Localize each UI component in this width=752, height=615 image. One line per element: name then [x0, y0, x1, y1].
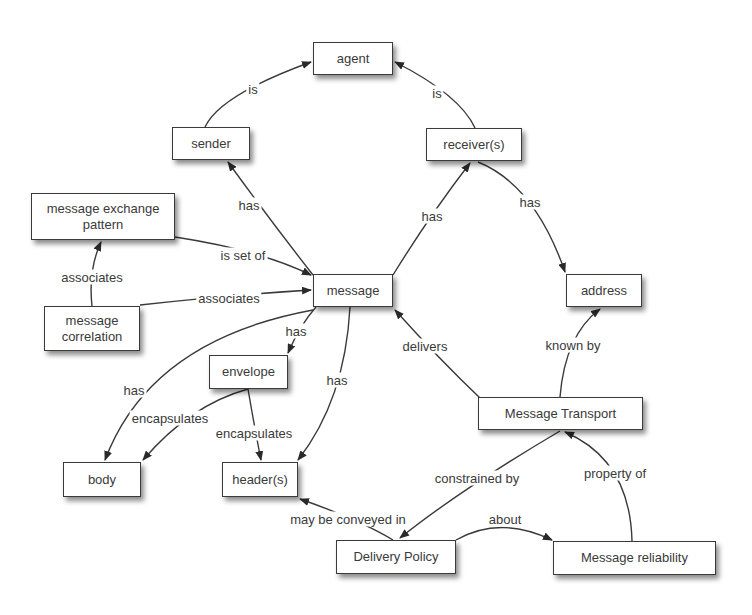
edge-policy-to-reliability: [456, 528, 552, 541]
node-label: receiver(s): [443, 137, 504, 153]
node-envelope[interactable]: envelope: [209, 355, 288, 389]
relation-label-correlation-message: associates: [196, 291, 261, 306]
relation-label-transport-message: delivers: [401, 339, 450, 354]
node-label: agent: [337, 51, 370, 67]
node-mep[interactable]: message exchange pattern: [31, 193, 175, 240]
node-message[interactable]: message: [313, 274, 393, 307]
node-reliability[interactable]: Message reliability: [553, 541, 716, 575]
relation-label-policy-headers: may be conveyed in: [288, 512, 408, 527]
relation-label-message-headers: has: [325, 373, 350, 388]
relation-label-message-body: has: [122, 383, 147, 398]
node-label: envelope: [222, 364, 275, 380]
edge-transport-to-message: [395, 310, 480, 398]
relation-label-transport-policy: constrained by: [433, 471, 522, 486]
relation-label-sender-agent: is: [246, 82, 259, 97]
node-label: header(s): [232, 472, 288, 488]
edge-envelope-to-headers: [248, 389, 261, 460]
node-policy[interactable]: Delivery Policy: [336, 540, 456, 574]
relation-label-envelope-body: encapsulates: [130, 411, 211, 426]
node-label: Message Transport: [505, 406, 616, 422]
relation-label-message-receivers: has: [420, 209, 445, 224]
node-label: Message reliability: [581, 550, 688, 566]
node-receivers[interactable]: receiver(s): [426, 128, 522, 161]
relation-label-mep-message: is set of: [219, 248, 268, 263]
node-sender[interactable]: sender: [172, 127, 250, 160]
edge-transport-to-address: [560, 309, 600, 397]
relation-label-envelope-headers: encapsulates: [214, 426, 295, 441]
edge-reliability-to-transport: [565, 432, 632, 541]
node-correlation[interactable]: message correlation: [44, 306, 140, 351]
node-label: address: [581, 283, 627, 299]
relation-label-policy-reliability: about: [487, 512, 524, 527]
node-body[interactable]: body: [63, 462, 141, 497]
node-label: message: [327, 283, 380, 299]
node-address[interactable]: address: [566, 274, 642, 307]
relation-label-transport-address: known by: [544, 338, 603, 353]
relation-label-reliability-transport: property of: [582, 466, 648, 481]
relation-label-message-sender: has: [237, 198, 262, 213]
node-label: sender: [191, 136, 231, 152]
relation-label-correlation-mep: associates: [59, 270, 124, 285]
node-transport[interactable]: Message Transport: [478, 397, 643, 430]
node-label: message correlation: [62, 313, 123, 345]
node-label: body: [88, 472, 116, 488]
relation-label-message-envelope: has: [284, 324, 309, 339]
node-label: message exchange pattern: [47, 201, 160, 233]
node-headers[interactable]: header(s): [222, 462, 298, 497]
edge-receivers-to-address: [478, 162, 565, 272]
relation-label-receivers-agent: is: [430, 86, 443, 101]
node-agent[interactable]: agent: [313, 42, 393, 75]
node-label: Delivery Policy: [353, 549, 438, 565]
relation-label-receivers-address: has: [518, 195, 543, 210]
